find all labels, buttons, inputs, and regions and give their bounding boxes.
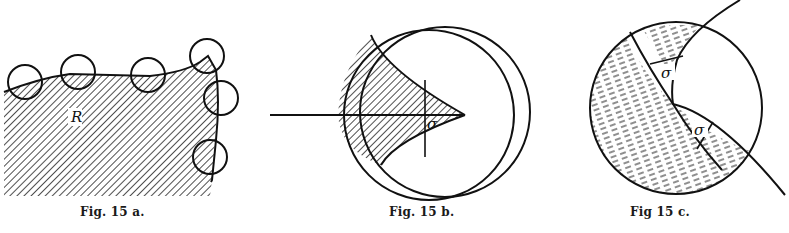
figure-canvas: R σ σ σ (0, 0, 789, 233)
angle-label-sigma-lower: σ (694, 121, 705, 139)
fig-15a-drawing: R (4, 39, 238, 196)
region-label-r: R (70, 108, 82, 126)
caption-fig-15c: Fig 15 c. (630, 205, 690, 219)
fig-15b-drawing: σ (270, 30, 514, 200)
caption-fig-15b: Fig. 15 b. (389, 205, 454, 219)
angle-label-sigma: σ (427, 115, 438, 133)
region-r-hatched (4, 56, 217, 196)
caption-fig-15a: Fig. 15 a. (80, 205, 145, 219)
angle-label-sigma-upper: σ (661, 64, 672, 82)
